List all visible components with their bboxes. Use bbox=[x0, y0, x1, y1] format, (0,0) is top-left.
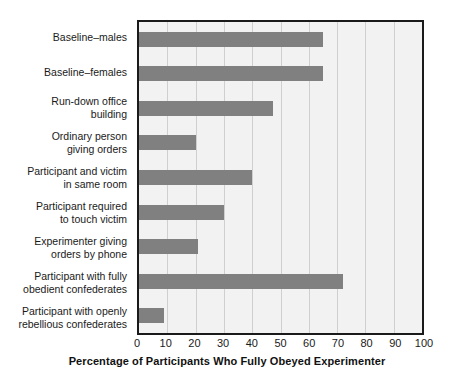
x-axis-title: Percentage of Participants Who Fully Obe… bbox=[0, 355, 454, 367]
bar-row bbox=[139, 57, 422, 92]
bar bbox=[139, 205, 224, 220]
x-tick-label: 80 bbox=[360, 337, 372, 349]
bars-container bbox=[139, 22, 422, 333]
x-tick-label: 10 bbox=[160, 337, 172, 349]
bar bbox=[139, 170, 252, 185]
bar-row bbox=[139, 126, 422, 161]
x-tick-label: 30 bbox=[217, 337, 229, 349]
category-label: Baseline–females bbox=[0, 55, 133, 90]
bar bbox=[139, 239, 198, 254]
category-label: Participant with openly rebellious confe… bbox=[0, 300, 133, 335]
category-label: Experimenter giving orders by phone bbox=[0, 230, 133, 265]
x-tick-label: 20 bbox=[188, 337, 200, 349]
bar bbox=[139, 135, 196, 150]
bar bbox=[139, 32, 323, 47]
x-tick-label: 100 bbox=[415, 337, 433, 349]
x-tick-label: 40 bbox=[246, 337, 258, 349]
x-tick-label: 60 bbox=[303, 337, 315, 349]
bar-row bbox=[139, 91, 422, 126]
bar-row bbox=[139, 195, 422, 230]
category-axis-labels: Baseline–males Baseline–females Run-down… bbox=[0, 20, 133, 335]
category-label: Participant with fully obedient confeder… bbox=[0, 265, 133, 300]
x-tick-label: 70 bbox=[332, 337, 344, 349]
bar bbox=[139, 274, 343, 289]
bar bbox=[139, 101, 273, 116]
bar-row bbox=[139, 160, 422, 195]
bar-row bbox=[139, 299, 422, 334]
bar-chart-figure: Baseline–males Baseline–females Run-down… bbox=[0, 0, 454, 378]
x-tick-label: 90 bbox=[389, 337, 401, 349]
category-label: Ordinary person giving orders bbox=[0, 125, 133, 160]
bar-row bbox=[139, 229, 422, 264]
category-label: Run-down office building bbox=[0, 90, 133, 125]
bar bbox=[139, 66, 323, 81]
x-tick-label: 0 bbox=[134, 337, 140, 349]
bar-row bbox=[139, 22, 422, 57]
category-label: Baseline–males bbox=[0, 20, 133, 55]
category-label: Participant required to touch victim bbox=[0, 195, 133, 230]
bar-row bbox=[139, 264, 422, 299]
value-axis-ticks: 0102030405060708090100 bbox=[137, 337, 424, 353]
x-tick-label: 50 bbox=[274, 337, 286, 349]
category-label: Participant and victim in same room bbox=[0, 160, 133, 195]
plot-area bbox=[137, 20, 424, 335]
bar bbox=[139, 308, 164, 323]
